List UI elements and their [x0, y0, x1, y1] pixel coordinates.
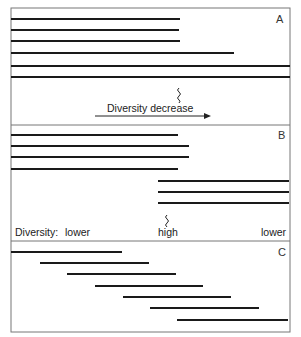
range-lines-b	[11, 135, 289, 203]
break-squiggle-icon	[178, 88, 181, 103]
panel-label-a: A	[276, 13, 284, 25]
stratigraphic-range-diagram: A Diversity decrease B Diversity: lower …	[0, 0, 301, 337]
diversity-high: high	[158, 226, 178, 238]
diversity-lower-right: lower	[261, 226, 287, 238]
range-lines-c	[11, 252, 288, 320]
range-lines-a	[11, 19, 290, 77]
arrow-head-icon	[204, 113, 211, 119]
diversity-lower-left: lower	[65, 226, 91, 238]
panel-c: C	[11, 246, 288, 320]
panel-label-b: B	[278, 129, 285, 141]
panel-a: A Diversity decrease	[11, 13, 290, 119]
panel-b: B Diversity: lower high lower	[11, 129, 289, 238]
panel-label-c: C	[278, 246, 286, 258]
diversity-decrease-caption: Diversity decrease	[107, 102, 194, 114]
diversity-label: Diversity:	[15, 226, 58, 238]
